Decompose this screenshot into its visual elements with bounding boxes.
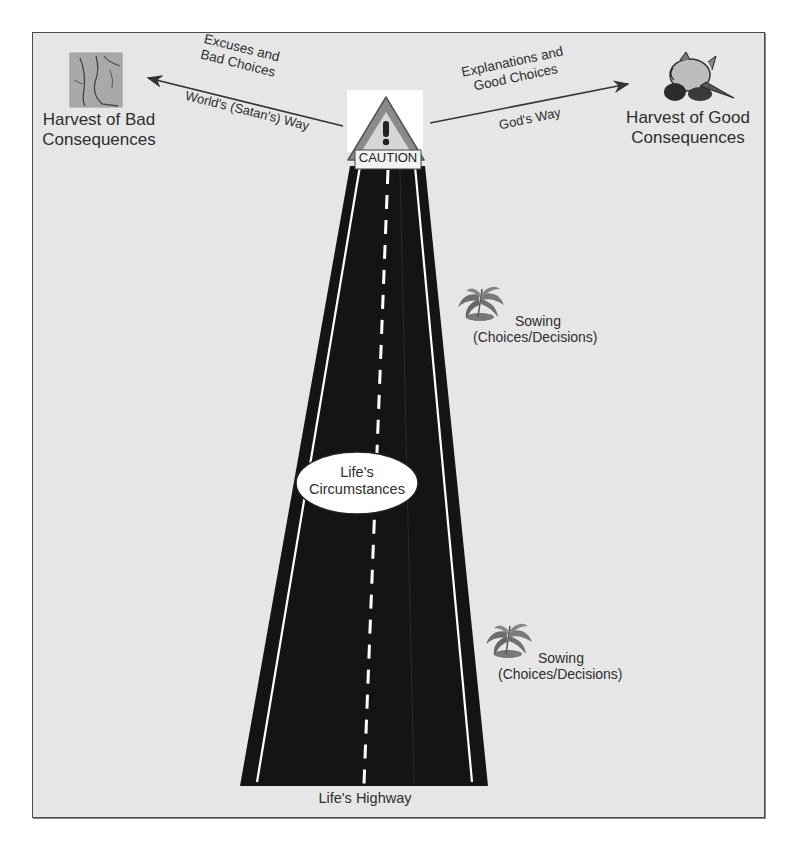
sowing-label: Sowing (Choices/Decisions) bbox=[473, 313, 673, 345]
circumstances-label: Life's Circumstances bbox=[297, 464, 417, 497]
highway-label: Life's Highway bbox=[300, 790, 430, 807]
caution-text: CAUTION bbox=[355, 151, 421, 166]
exclamation-warning-icon bbox=[383, 121, 389, 145]
sowing-label: Sowing (Choices/Decisions) bbox=[498, 650, 698, 682]
good-harvest-label: Harvest of Good Consequences bbox=[618, 108, 758, 147]
cracked-ground-icon bbox=[70, 53, 122, 107]
produce-harvest-icon bbox=[664, 52, 734, 101]
bad-harvest-label: Harvest of Bad Consequences bbox=[34, 110, 164, 149]
